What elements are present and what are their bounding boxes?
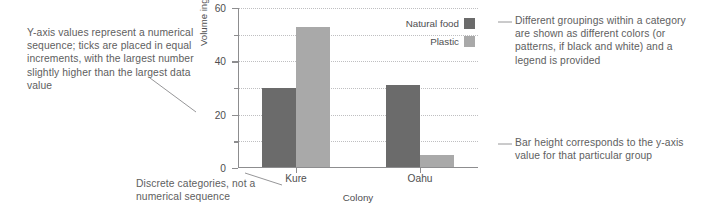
annotation-y-axis-text: Y-axis values represent a numerical sequ… <box>27 27 194 91</box>
x-tick-label-kure: Kure <box>285 173 307 184</box>
x-tick-label-oahu: Oahu <box>408 173 433 184</box>
annotation-bar-height: Bar height corresponds to the y-axis val… <box>515 136 705 162</box>
y-tick-minor-30 <box>234 88 238 89</box>
chart-legend: Natural food Plastic <box>355 18 475 54</box>
y-tick-label-40: 40 <box>204 56 226 67</box>
y-tick-major-40 <box>232 61 238 62</box>
bar-kure-natural-food <box>262 88 296 168</box>
figure-root: Y-axis values represent a numerical sequ… <box>0 0 710 220</box>
y-axis-line <box>238 8 239 168</box>
gridline-60 <box>239 8 478 9</box>
bar-oahu-natural-food <box>386 85 420 168</box>
legend-item-plastic: Plastic <box>355 36 475 47</box>
bar-kure-plastic <box>296 27 330 168</box>
legend-label-plastic: Plastic <box>430 36 459 47</box>
annotation-groupings-text: Different groupings within a category ar… <box>515 15 686 66</box>
y-tick-label-0: 0 <box>204 163 226 174</box>
annotation-bar-height-text: Bar height corresponds to the y-axis val… <box>515 137 684 161</box>
legend-swatch-plastic <box>464 36 475 47</box>
legend-label-natural-food: Natural food <box>406 18 459 29</box>
y-tick-major-0 <box>232 168 238 169</box>
y-tick-label-60: 60 <box>204 3 226 14</box>
legend-swatch-natural-food <box>464 18 475 29</box>
y-tick-major-60 <box>232 8 238 9</box>
annotation-groupings: Different groupings within a category ar… <box>515 14 700 67</box>
bar-chart: Volume ingested (ml) 0 20 40 60 <box>200 8 500 188</box>
x-axis-label: Colony <box>238 192 478 203</box>
gridline-40 <box>239 61 478 62</box>
y-tick-minor-10 <box>234 141 238 142</box>
legend-item-natural-food: Natural food <box>355 18 475 29</box>
y-tick-label-20: 20 <box>204 109 226 120</box>
y-tick-major-20 <box>232 115 238 116</box>
annotation-y-axis: Y-axis values represent a numerical sequ… <box>27 26 195 92</box>
x-axis-line <box>238 167 478 168</box>
y-tick-minor-50 <box>234 35 238 36</box>
y-tick-labels: 0 20 40 60 <box>200 8 226 168</box>
